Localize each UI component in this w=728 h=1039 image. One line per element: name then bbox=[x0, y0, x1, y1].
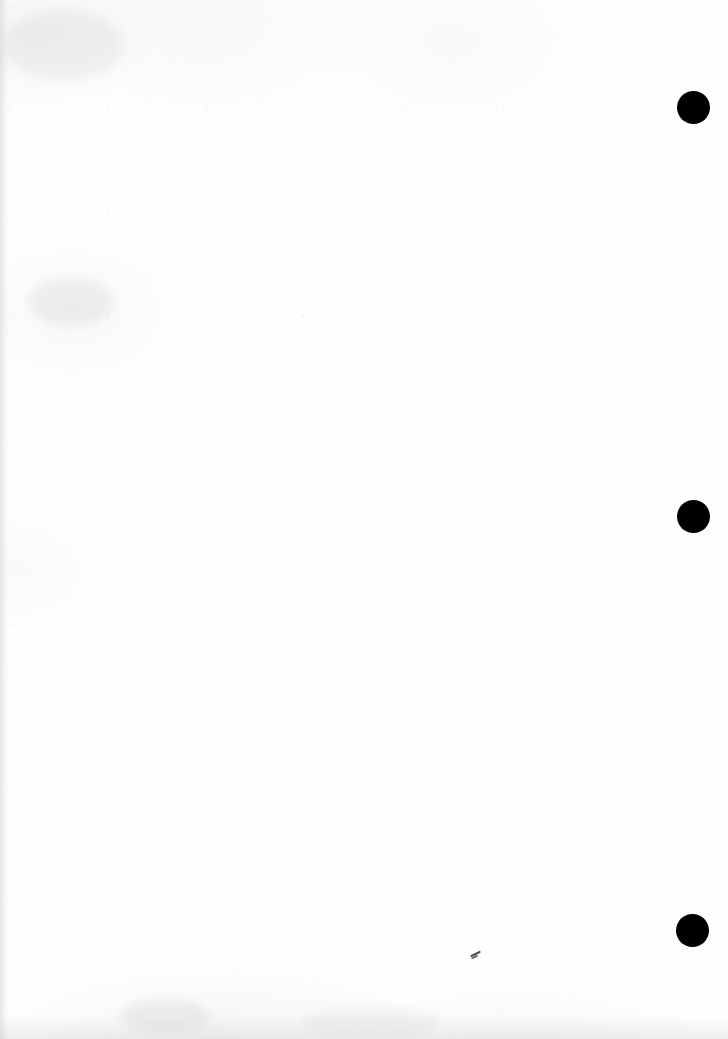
punch-dot-middle bbox=[677, 500, 710, 533]
paper-background bbox=[0, 0, 728, 1039]
punch-dot-top bbox=[677, 91, 710, 124]
scanned-page bbox=[0, 0, 728, 1039]
punch-dot-bottom bbox=[676, 914, 709, 947]
